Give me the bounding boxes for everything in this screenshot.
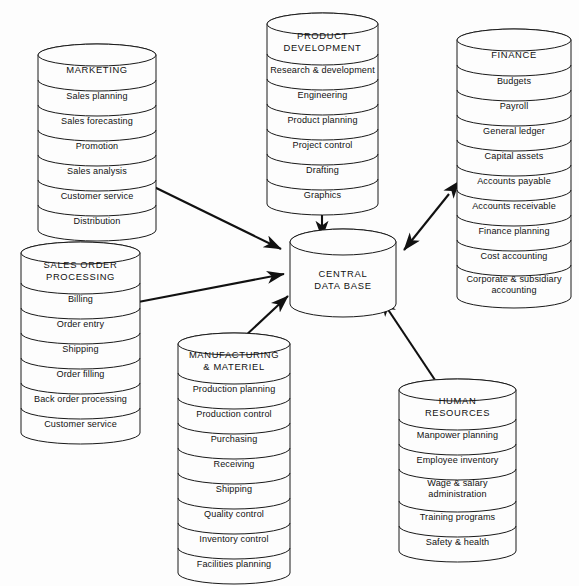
cylinder-item-label: Training programs xyxy=(420,512,496,522)
cylinder-marketing[interactable]: MARKETINGSales planningSales forecasting… xyxy=(38,44,156,241)
cylinder-item-label: Sales analysis xyxy=(67,166,127,176)
cylinder-title: SALES ORDER xyxy=(44,259,118,270)
cylinder-finance[interactable]: FINANCEBudgetsPayrollGeneral ledgerCapit… xyxy=(457,29,571,308)
central-db-top xyxy=(290,229,396,255)
cylinder-item-label: Safety & health xyxy=(426,537,489,547)
cylinder-item-label: Accounts receivable xyxy=(472,201,556,211)
cylinder-item-label: Wage & salary xyxy=(427,478,488,488)
cylinder-item-label: Budgets xyxy=(497,76,532,86)
cylinder-item-label: Drafting xyxy=(306,165,339,175)
diagram-canvas: MARKETINGSales planningSales forecasting… xyxy=(0,0,579,586)
cylinder-item-label: Accounts payable xyxy=(477,176,551,186)
connector-manufacturing-to-db xyxy=(243,296,288,338)
cylinder-title: DEVELOPMENT xyxy=(284,42,362,53)
cylinder-item-label: Receiving xyxy=(213,459,254,469)
cylinder-sales-order-processing[interactable]: SALES ORDERPROCESSINGBillingOrder entryS… xyxy=(21,242,140,444)
cylinder-item-label: administration xyxy=(428,489,486,499)
cylinder-human-resources[interactable]: HUMANRESOURCESManpower planningEmployee … xyxy=(399,379,516,562)
cylinder-item-label: Employee inventory xyxy=(416,455,498,465)
cylinder-item-label: Purchasing xyxy=(211,434,258,444)
cylinder-item-label: Inventory control xyxy=(199,534,268,544)
central-database-diagram: MARKETINGSales planningSales forecasting… xyxy=(0,0,579,586)
cylinder-item-label: Back order processing xyxy=(34,394,127,404)
cylinder-item-label: Customer service xyxy=(44,419,117,429)
cylinder-item-label: Order entry xyxy=(57,319,105,329)
cylinder-item-label: Cost accounting xyxy=(480,251,547,261)
cylinder-title: RESOURCES xyxy=(425,407,490,418)
cylinder-item-label: General ledger xyxy=(483,126,545,136)
cylinder-item-label: Production planning xyxy=(193,384,276,394)
cylinder-item-label: Shipping xyxy=(62,344,98,354)
cylinder-shell xyxy=(457,29,571,308)
cylinder-product-development[interactable]: PRODUCTDEVELOPMENTResearch & development… xyxy=(267,13,378,215)
cylinder-item-label: Product planning xyxy=(287,115,357,125)
cylinder-item-label: Order filling xyxy=(56,369,104,379)
cylinder-item-label: Promotion xyxy=(76,141,119,151)
cylinder-manufacturing-materiel[interactable]: MANUFACTURING& MATERIELProduction planni… xyxy=(178,333,290,584)
cylinder-title: & MATERIEL xyxy=(203,361,265,372)
cylinder-item-label: Sales forecasting xyxy=(61,116,133,126)
cylinder-title: PRODUCT xyxy=(297,30,348,41)
cylinder-item-label: Distribution xyxy=(74,216,121,226)
cylinder-title: MARKETING xyxy=(66,64,128,75)
cylinder-item-label: Capital assets xyxy=(485,151,544,161)
connector-finance-to-db xyxy=(404,194,449,250)
cylinder-item-label: Shipping xyxy=(216,484,252,494)
cylinder-title: PROCESSING xyxy=(46,271,115,282)
cylinder-item-label: Manpower planning xyxy=(417,430,498,440)
cylinder-item-label: Corporate & subsidiary xyxy=(466,274,561,284)
cylinder-item-label: Project control xyxy=(293,140,353,150)
cylinder-item-label: accounting xyxy=(491,285,536,295)
connector-human-resources-to-db xyxy=(381,299,437,383)
connector-marketing-to-db xyxy=(146,183,281,249)
cylinder-item-label: Graphics xyxy=(304,190,342,200)
cylinder-top xyxy=(38,44,156,66)
central-db-label: DATA BASE xyxy=(314,280,371,291)
central-db-label: CENTRAL xyxy=(318,268,367,279)
cylinder-item-label: Customer service xyxy=(61,191,134,201)
cylinder-item-label: Production control xyxy=(196,409,271,419)
cylinder-item-label: Quality control xyxy=(204,509,264,519)
cylinder-title: FINANCE xyxy=(491,49,537,60)
central-data-base-layer: CENTRALDATA BASE xyxy=(290,229,396,317)
cylinder-item-label: Facilities planning xyxy=(197,559,272,569)
cylinder-item-label: Finance planning xyxy=(478,226,549,236)
central-data-base[interactable]: CENTRALDATA BASE xyxy=(290,229,396,317)
cylinder-title: MANUFACTURING xyxy=(189,349,279,360)
cylinder-item-label: Sales planning xyxy=(66,91,127,101)
cylinder-item-label: Engineering xyxy=(298,90,348,100)
cylinder-item-label: Research & development xyxy=(270,65,375,75)
connector-sales-order-processing-to-db xyxy=(133,274,284,303)
cylinder-item-label: Payroll xyxy=(500,101,529,111)
cylinder-item-label: Billing xyxy=(68,294,93,304)
cylinder-top xyxy=(457,29,571,51)
cylinder-title: HUMAN xyxy=(439,395,477,406)
